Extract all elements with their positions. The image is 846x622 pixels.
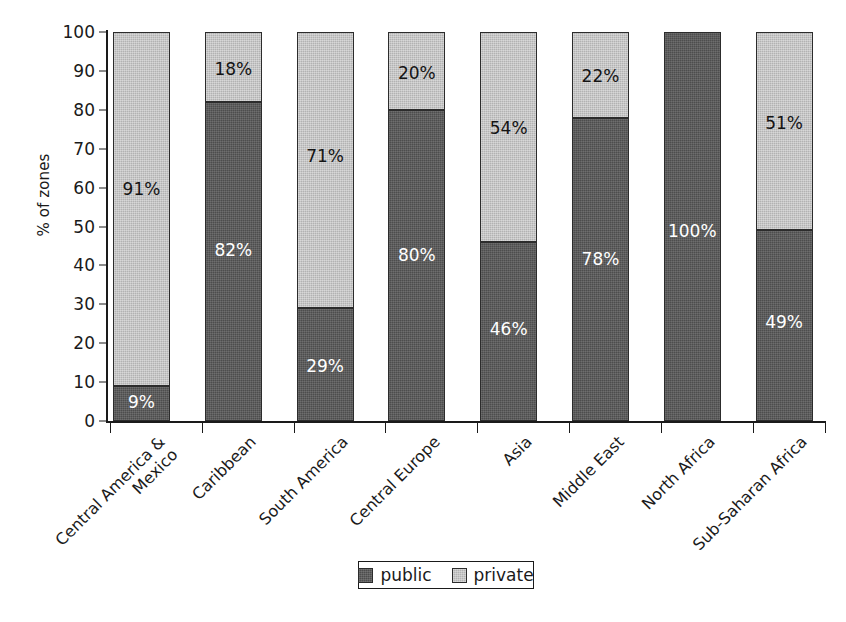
bar-1: 91%9% <box>113 32 170 421</box>
bar-segment-private <box>480 32 537 242</box>
bar-3: 71%29% <box>297 32 354 421</box>
x-tick-mark <box>202 423 203 433</box>
bar-segment-public <box>572 118 629 421</box>
y-tick-mark <box>99 343 106 344</box>
x-tick-mark <box>825 423 826 433</box>
y-tick-mark <box>99 32 106 33</box>
y-tick-mark <box>99 265 106 266</box>
bar-segment-public <box>297 308 354 421</box>
y-tick-label: 90 <box>31 62 95 79</box>
x-tick-mark <box>294 423 295 433</box>
y-tick-label: 80 <box>31 101 95 118</box>
y-axis-line <box>106 30 108 423</box>
private-swatch <box>452 568 467 583</box>
y-tick-mark <box>99 421 106 422</box>
bar-2: 18%82% <box>205 32 262 421</box>
bar-segment-private <box>756 32 813 230</box>
stacked-bar-chart: % of zones 1009080706050403020100 91%9%1… <box>0 0 846 622</box>
y-tick-mark <box>99 70 106 71</box>
y-tick-label: 70 <box>31 140 95 157</box>
bar-segment-private <box>388 32 445 110</box>
y-tick-mark <box>99 109 106 110</box>
bar-segment-public <box>480 242 537 421</box>
y-tick-label: 50 <box>31 218 95 235</box>
x-axis-label-4: Central Europe <box>247 433 444 622</box>
y-tick-label: 0 <box>31 413 95 430</box>
y-tick-label: 30 <box>31 296 95 313</box>
bar-segment-private <box>572 32 629 118</box>
bar-8: 51%49% <box>756 32 813 421</box>
y-tick-mark <box>99 304 106 305</box>
legend-item-private: private <box>452 567 534 584</box>
y-tick-label: 40 <box>31 257 95 274</box>
y-tick-mark <box>99 187 106 188</box>
y-tick-label: 100 <box>31 24 95 41</box>
y-tick-mark <box>99 382 106 383</box>
x-tick-mark <box>110 423 111 433</box>
bar-segment-public <box>205 102 262 421</box>
x-axis-label-3: South America <box>155 433 352 622</box>
x-tick-mark <box>569 423 570 433</box>
y-tick-mark <box>99 226 106 227</box>
y-tick-mark <box>99 148 106 149</box>
y-tick-label: 20 <box>31 335 95 352</box>
bar-segment-public <box>388 110 445 421</box>
bar-segment-private <box>113 32 170 386</box>
bar-4: 20%80% <box>388 32 445 421</box>
x-tick-mark <box>477 423 478 433</box>
y-tick-label: 60 <box>31 179 95 196</box>
bar-segment-public <box>756 230 813 421</box>
x-axis-label-8: Sub-Saharan Africa <box>614 433 811 622</box>
x-tick-mark <box>753 423 754 433</box>
public-swatch <box>358 568 373 583</box>
x-axis-line <box>106 421 826 423</box>
bar-7: 100% <box>664 32 721 421</box>
bar-5: 54%46% <box>480 32 537 421</box>
x-tick-mark <box>385 423 386 433</box>
x-tick-mark <box>661 423 662 433</box>
x-axis-label-7: North Africa <box>522 433 719 622</box>
bar-segment-private <box>297 32 354 308</box>
bar-segment-public <box>664 32 721 421</box>
x-axis-label-6: Middle East <box>431 433 628 622</box>
legend-item-public: public <box>358 567 431 584</box>
bar-segment-private <box>205 32 262 102</box>
chart-legend: publicprivate <box>358 561 534 589</box>
bar-segment-public <box>113 386 170 421</box>
legend-label: public <box>380 567 431 584</box>
x-axis-label-5: Asia <box>339 433 536 622</box>
y-tick-label: 10 <box>31 374 95 391</box>
legend-label: private <box>474 567 534 584</box>
bar-6: 22%78% <box>572 32 629 421</box>
